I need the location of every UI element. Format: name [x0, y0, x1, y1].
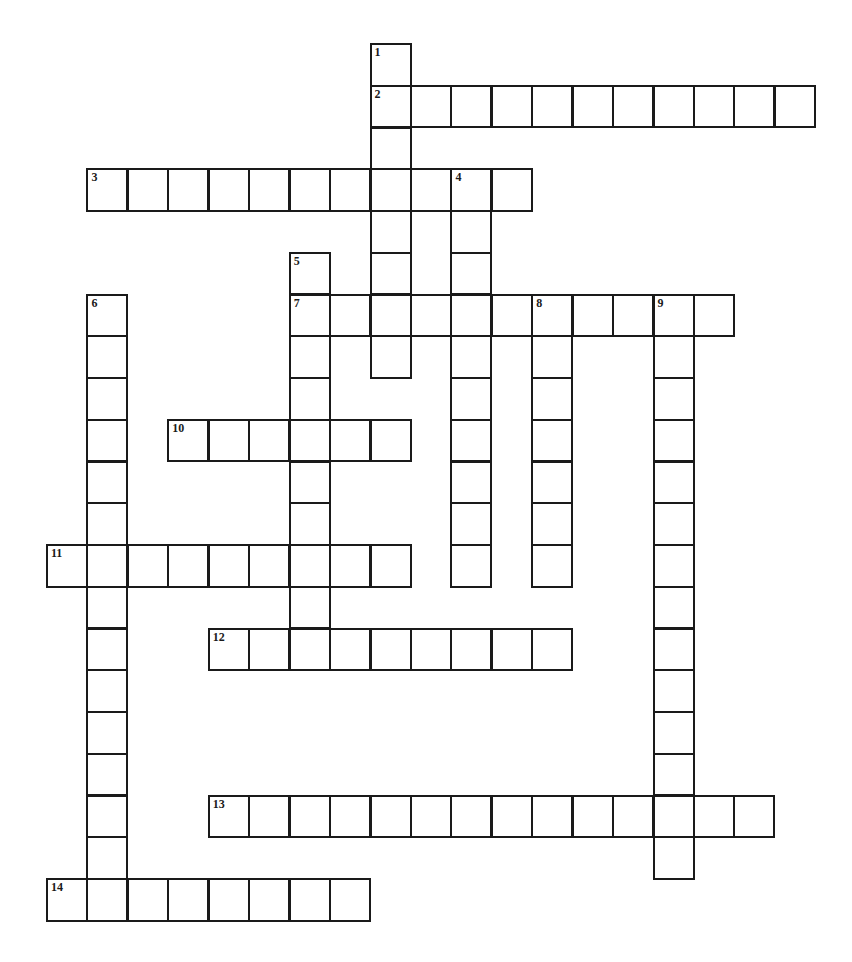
crossword-cell[interactable] [167, 544, 209, 588]
crossword-cell[interactable] [289, 544, 331, 588]
crossword-cell[interactable] [289, 461, 331, 505]
crossword-cell[interactable] [653, 711, 695, 755]
crossword-cell[interactable] [86, 544, 128, 588]
crossword-cell[interactable] [127, 544, 169, 588]
crossword-cell[interactable] [653, 377, 695, 421]
crossword-cell[interactable] [653, 461, 695, 505]
crossword-cell[interactable]: 10 [167, 419, 209, 463]
crossword-cell[interactable] [410, 795, 452, 839]
crossword-cell[interactable] [653, 544, 695, 588]
crossword-cell[interactable] [248, 878, 290, 922]
crossword-cell[interactable] [572, 795, 614, 839]
crossword-cell[interactable] [733, 795, 775, 839]
crossword-cell[interactable]: 3 [86, 168, 128, 212]
crossword-cell[interactable] [450, 377, 492, 421]
crossword-cell[interactable] [329, 168, 371, 212]
crossword-cell[interactable] [612, 795, 654, 839]
crossword-cell[interactable] [289, 628, 331, 672]
crossword-cell[interactable] [370, 210, 412, 254]
crossword-cell[interactable] [450, 502, 492, 546]
crossword-cell[interactable] [86, 669, 128, 713]
crossword-cell[interactable]: 5 [289, 252, 331, 296]
crossword-cell[interactable] [450, 294, 492, 338]
crossword-cell[interactable] [450, 252, 492, 296]
crossword-cell[interactable] [86, 795, 128, 839]
crossword-cell[interactable] [653, 85, 695, 129]
crossword-cell[interactable]: 9 [653, 294, 695, 338]
crossword-cell[interactable] [329, 419, 371, 463]
crossword-cell[interactable] [167, 878, 209, 922]
crossword-cell[interactable] [208, 168, 250, 212]
crossword-cell[interactable] [370, 335, 412, 379]
crossword-cell[interactable] [86, 753, 128, 797]
crossword-cell[interactable]: 8 [531, 294, 573, 338]
crossword-cell[interactable] [693, 85, 735, 129]
crossword-cell[interactable] [531, 795, 573, 839]
crossword-cell[interactable] [491, 168, 533, 212]
crossword-cell[interactable] [289, 795, 331, 839]
crossword-cell[interactable] [410, 628, 452, 672]
crossword-cell[interactable] [450, 795, 492, 839]
crossword-cell[interactable] [450, 628, 492, 672]
crossword-cell[interactable] [653, 753, 695, 797]
crossword-cell[interactable] [289, 168, 331, 212]
crossword-cell[interactable] [612, 85, 654, 129]
crossword-cell[interactable] [410, 168, 452, 212]
crossword-cell[interactable] [289, 878, 331, 922]
crossword-cell[interactable] [248, 544, 290, 588]
crossword-cell[interactable] [370, 127, 412, 171]
crossword-cell[interactable] [653, 335, 695, 379]
crossword-cell[interactable] [491, 85, 533, 129]
crossword-cell[interactable] [329, 878, 371, 922]
crossword-cell[interactable] [86, 335, 128, 379]
crossword-cell[interactable]: 12 [208, 628, 250, 672]
crossword-cell[interactable] [127, 168, 169, 212]
crossword-cell[interactable]: 4 [450, 168, 492, 212]
crossword-cell[interactable] [612, 294, 654, 338]
crossword-cell[interactable] [531, 419, 573, 463]
crossword-cell[interactable] [653, 669, 695, 713]
crossword-cell[interactable] [86, 628, 128, 672]
crossword-cell[interactable] [86, 711, 128, 755]
crossword-cell[interactable] [329, 294, 371, 338]
crossword-cell[interactable] [248, 168, 290, 212]
crossword-cell[interactable] [208, 419, 250, 463]
crossword-cell[interactable] [450, 419, 492, 463]
crossword-cell[interactable] [491, 294, 533, 338]
crossword-cell[interactable] [531, 628, 573, 672]
crossword-cell[interactable] [289, 419, 331, 463]
crossword-cell[interactable] [653, 586, 695, 630]
crossword-cell[interactable] [450, 461, 492, 505]
crossword-cell[interactable] [329, 544, 371, 588]
crossword-cell[interactable] [450, 85, 492, 129]
crossword-cell[interactable]: 11 [46, 544, 88, 588]
crossword-cell[interactable] [653, 628, 695, 672]
crossword-cell[interactable] [531, 377, 573, 421]
crossword-cell[interactable] [370, 419, 412, 463]
crossword-cell[interactable]: 13 [208, 795, 250, 839]
crossword-cell[interactable] [86, 502, 128, 546]
crossword-cell[interactable] [86, 586, 128, 630]
crossword-cell[interactable] [329, 795, 371, 839]
crossword-cell[interactable] [733, 85, 775, 129]
crossword-cell[interactable] [289, 377, 331, 421]
crossword-cell[interactable] [370, 168, 412, 212]
crossword-cell[interactable] [410, 294, 452, 338]
crossword-cell[interactable] [531, 335, 573, 379]
crossword-cell[interactable] [572, 294, 614, 338]
crossword-cell[interactable] [370, 628, 412, 672]
crossword-cell[interactable] [531, 544, 573, 588]
crossword-cell[interactable]: 1 [370, 43, 412, 87]
crossword-cell[interactable] [653, 836, 695, 880]
crossword-cell[interactable] [531, 461, 573, 505]
crossword-cell[interactable] [86, 419, 128, 463]
crossword-cell[interactable]: 2 [370, 85, 412, 129]
crossword-cell[interactable]: 6 [86, 294, 128, 338]
crossword-cell[interactable] [450, 335, 492, 379]
crossword-cell[interactable] [208, 544, 250, 588]
crossword-cell[interactable] [693, 795, 735, 839]
crossword-cell[interactable] [491, 628, 533, 672]
crossword-cell[interactable]: 14 [46, 878, 88, 922]
crossword-cell[interactable] [774, 85, 816, 129]
crossword-cell[interactable] [450, 210, 492, 254]
